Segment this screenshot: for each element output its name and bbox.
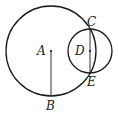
point-D-dot (89, 50, 91, 52)
label-D: D (74, 44, 85, 58)
label-E: E (86, 75, 96, 89)
point-A-dot (50, 50, 52, 52)
label-C: C (87, 15, 96, 29)
label-B: B (45, 99, 55, 113)
label-A: A (36, 44, 46, 58)
geometry-diagram: A B C D E (0, 0, 118, 116)
